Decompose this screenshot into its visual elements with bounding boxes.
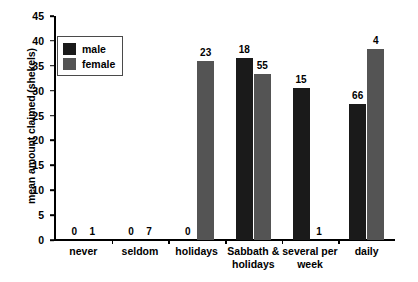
bar-sample-size-label: 18 xyxy=(239,45,250,55)
y-axis-tick-label: 45 xyxy=(32,10,44,22)
legend-item-female: female xyxy=(63,56,115,71)
y-axis-tick-label: 30 xyxy=(32,85,44,97)
x-axis-category-labels: neverseldomholidaysSabbath & holidayssev… xyxy=(55,245,395,281)
x-axis-category-label: holidays xyxy=(168,245,225,258)
bar-sample-size-label: 4 xyxy=(373,36,379,46)
bar-sample-size-label: 0 xyxy=(128,227,134,237)
x-axis-tick-mark xyxy=(225,239,227,244)
legend-label-female: female xyxy=(82,58,115,70)
legend-item-male: male xyxy=(63,41,115,56)
y-axis-tick-label: 20 xyxy=(32,134,44,146)
bar-female xyxy=(254,74,271,240)
y-axis-tick-label: 35 xyxy=(32,60,44,72)
x-axis-category-label: seldom xyxy=(112,245,169,258)
legend-swatch-female-icon xyxy=(63,58,76,70)
bar-sample-size-label: 1 xyxy=(316,227,322,237)
x-axis-tick-mark xyxy=(112,239,114,244)
y-axis-tick-label: 10 xyxy=(32,184,44,196)
legend-label-male: male xyxy=(82,43,106,55)
bar-sample-size-label: 23 xyxy=(200,48,211,58)
y-axis-tick-label: 25 xyxy=(32,110,44,122)
x-axis-tick-mark xyxy=(338,239,340,244)
y-axis-tick-label: 15 xyxy=(32,159,44,171)
y-axis-ticks: 454035302520151050 xyxy=(0,0,54,282)
bar-chart: mean amount claimed (shekels) 4540353025… xyxy=(0,0,418,282)
x-axis-category-label: several per week xyxy=(282,245,339,270)
bar-female xyxy=(197,61,214,240)
x-axis-tick-mark xyxy=(168,239,170,244)
bar-sample-size-label: 0 xyxy=(72,227,78,237)
bar-sample-size-label: 55 xyxy=(257,61,268,71)
x-axis-category-label: Sabbath & holidays xyxy=(225,245,282,270)
bar-sample-size-label: 15 xyxy=(295,75,306,85)
bar-male xyxy=(236,58,253,240)
y-axis-tick-label: 5 xyxy=(38,209,44,221)
x-axis-tick-mark xyxy=(282,239,284,244)
legend-swatch-male-icon xyxy=(63,43,76,55)
bar-sample-size-label: 66 xyxy=(352,91,363,101)
y-axis-tick-label: 0 xyxy=(38,234,44,246)
x-axis-category-label: never xyxy=(55,245,112,258)
bar-sample-size-label: 7 xyxy=(146,227,152,237)
bar-male xyxy=(349,104,366,240)
bar-sample-size-label: 0 xyxy=(185,227,191,237)
x-axis-category-label: daily xyxy=(338,245,395,258)
bar-female xyxy=(367,49,384,240)
bar-sample-size-label: 1 xyxy=(90,227,96,237)
bar-male xyxy=(293,88,310,240)
y-axis-tick-label: 40 xyxy=(32,35,44,47)
legend: male female xyxy=(57,36,123,76)
